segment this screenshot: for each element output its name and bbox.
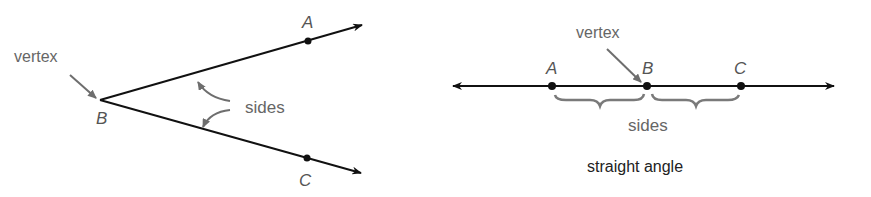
- side-pointer-arrow-bottom: [203, 110, 230, 127]
- ray-bc: [100, 100, 361, 173]
- angle-diagrams: vertex sides B A C vertex A B C sides st…: [0, 0, 871, 197]
- point-c: [304, 155, 311, 162]
- point-a: [305, 38, 312, 45]
- point-label-b: B: [96, 109, 107, 128]
- vertex-pointer-arrow: [70, 75, 96, 98]
- brace-right: [652, 94, 739, 106]
- vertex-label: vertex: [14, 48, 58, 65]
- ray-ba: [100, 25, 362, 100]
- vertex-pointer-arrow: [607, 49, 641, 82]
- vertex-label: vertex: [576, 24, 620, 41]
- point-a: [548, 82, 556, 90]
- point-label-c: C: [299, 171, 312, 190]
- sides-label: sides: [628, 116, 668, 135]
- point-b: [643, 82, 651, 90]
- point-c: [737, 82, 745, 90]
- point-label-c: C: [734, 59, 747, 78]
- point-label-a: A: [545, 59, 557, 78]
- left-angle-diagram: vertex sides B A C: [14, 13, 362, 190]
- side-pointer-arrow-top: [198, 82, 230, 101]
- caption: straight angle: [587, 158, 683, 175]
- sides-label: sides: [245, 98, 285, 117]
- straight-angle-diagram: vertex A B C sides straight angle: [453, 24, 834, 175]
- point-label-b: B: [642, 59, 653, 78]
- brace-left: [555, 94, 644, 106]
- point-label-a: A: [301, 13, 313, 32]
